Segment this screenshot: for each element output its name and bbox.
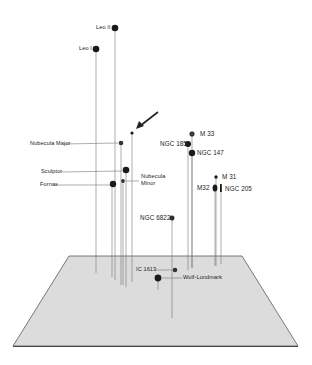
galaxy-wolf-lundmark <box>155 275 162 282</box>
label-nubecula-major: Nubecula Major <box>30 141 71 147</box>
label-fornax: Fornax <box>40 182 58 188</box>
label-m33: M 33 <box>200 131 214 137</box>
label-sculptor: Sculptor <box>41 169 62 175</box>
galaxy-ngc-205 <box>220 184 222 192</box>
galaxy-m33 <box>190 132 194 136</box>
label-leo-i: Leo I <box>79 46 92 52</box>
label-m31: M 31 <box>222 174 236 180</box>
galaxy-sculptor <box>123 167 130 174</box>
label-nubecula-minor-line2: Minor <box>141 181 156 187</box>
label-nubecula-minor-line1: Nubecula <box>141 174 165 180</box>
galaxy-ic-1613 <box>173 268 178 273</box>
galaxy-m32 <box>213 184 218 191</box>
label-ngc-6822: NGC 6822 <box>140 215 171 221</box>
galaxy-nubecula-major <box>119 141 124 146</box>
label-ngc-147: NGC 147 <box>197 150 224 156</box>
label-ngc-205: NGC 205 <box>225 186 252 192</box>
galaxy-leo-ii <box>112 25 119 32</box>
galaxy-unlabeled-arrow <box>130 131 133 134</box>
label-ic-1613: IC 1613 <box>136 267 156 273</box>
label-leo-ii: Leo II <box>96 25 111 31</box>
galaxy-nubecula-minor <box>121 179 125 183</box>
galaxy-ngc-147 <box>189 150 195 156</box>
label-ngc-185: NGC 185 <box>160 141 187 147</box>
pointer-arrow <box>136 112 158 129</box>
galaxy-m31 <box>214 175 217 178</box>
galaxy-leo-i <box>93 46 100 53</box>
galaxy-fornax <box>110 181 116 187</box>
label-m32: M32 <box>197 185 210 191</box>
label-wolf-lundmark: Wolf-Lundmark <box>183 275 222 281</box>
